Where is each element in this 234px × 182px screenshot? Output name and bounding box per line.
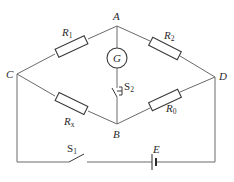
galvanometer-label: G [113,52,121,64]
node-b-label: B [113,128,120,140]
galvanometer: G [107,48,127,68]
battery-e: E [152,143,160,170]
s2-label: S2 [124,80,134,94]
resistor-r0: R0 [149,89,182,116]
node-d-label: D [218,70,227,82]
switch-s1: S1 [67,142,84,162]
node-a-label: A [112,10,120,22]
switch-s2: S2 [112,80,134,97]
resistor-r1: R1 [55,26,88,57]
resistor-rx: Rx [55,92,88,129]
r1-label: R1 [61,26,73,40]
rx-label: Rx [63,115,75,129]
circuit-diagram: R1 R2 Rx R0 G S2 S1 E A B C D [0,0,234,182]
r0-label: R0 [165,102,177,116]
bridge-wires [17,26,215,162]
node-c-label: C [6,68,14,80]
r2-label: R2 [163,29,175,43]
battery-label: E [152,143,160,155]
s1-label: S1 [67,142,77,156]
resistor-r2: R2 [149,29,182,60]
